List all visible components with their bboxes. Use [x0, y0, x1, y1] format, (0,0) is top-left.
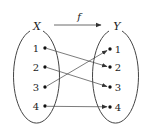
codomain-element-label: 1	[115, 44, 121, 55]
codomain-set-label: Y	[113, 20, 122, 33]
domain-point	[43, 85, 46, 88]
mapping-arrow-1-to-2	[47, 49, 107, 67]
mapping-arrow-2-to-3	[47, 68, 107, 87]
domain-point	[43, 46, 46, 49]
function-mapping-diagram: X Y f 1 2 3 4 1 2 3 4	[0, 0, 150, 132]
codomain-point	[108, 47, 111, 50]
codomain-point	[108, 65, 111, 68]
codomain-point	[108, 105, 111, 108]
domain-element-label: 1	[33, 43, 39, 54]
mapping-arrow-4-to-4	[47, 106, 107, 107]
codomain-point	[108, 85, 111, 88]
mapping-arrow-3-to-1	[47, 51, 107, 87]
codomain-element-label: 4	[115, 102, 121, 113]
domain-point	[43, 65, 46, 68]
domain-elements: 1 2 3 4	[33, 43, 47, 112]
domain-point	[43, 104, 46, 107]
domain-set-label: X	[32, 20, 42, 33]
domain-element-label: 4	[33, 101, 39, 112]
codomain-element-label: 2	[115, 62, 121, 73]
codomain-elements: 1 2 3 4	[108, 44, 121, 113]
domain-element-label: 2	[33, 62, 39, 73]
mapping-arrows	[47, 49, 107, 107]
codomain-element-label: 3	[115, 82, 121, 93]
domain-element-label: 3	[33, 82, 39, 93]
function-label: f	[76, 11, 83, 22]
